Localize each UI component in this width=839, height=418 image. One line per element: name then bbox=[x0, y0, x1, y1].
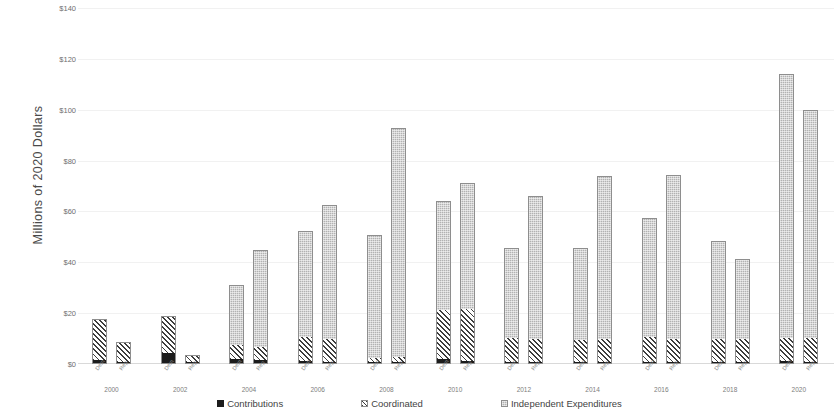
bar-segment-coordinated bbox=[299, 337, 312, 361]
bar-2002-dem[interactable] bbox=[161, 316, 176, 364]
bar-segment-coordinated bbox=[461, 309, 474, 361]
bar-segment-coordinated bbox=[230, 345, 243, 359]
bar-segment-independent-expenditures bbox=[574, 249, 587, 339]
bar-2006-dem[interactable] bbox=[298, 231, 313, 365]
x-axis-year-label: 2002 bbox=[173, 386, 187, 393]
bar-segment-independent-expenditures bbox=[505, 249, 518, 338]
bar-group-2006: DemRep2006 bbox=[290, 8, 359, 364]
legend-label: Coordinated bbox=[371, 398, 423, 409]
bar-2020-dem[interactable] bbox=[779, 74, 794, 364]
bar-segment-independent-expenditures bbox=[368, 236, 381, 357]
independent-expenditures-swatch bbox=[501, 400, 508, 407]
bar-segment-coordinated bbox=[93, 320, 106, 360]
bar-segment-independent-expenditures bbox=[667, 176, 680, 339]
bar-group-2010: DemRep2010 bbox=[428, 8, 497, 364]
bar-chart: Millions of 2020 Dollars $0$20$40$60$80$… bbox=[0, 0, 839, 418]
legend-item-coordinated[interactable]: Coordinated bbox=[361, 398, 423, 409]
bar-segment-coordinated bbox=[323, 339, 336, 362]
bar-group-2018: DemRep2018 bbox=[703, 8, 772, 364]
bar-segment-coordinated bbox=[804, 338, 817, 362]
bar-2006-rep[interactable] bbox=[322, 205, 337, 364]
y-axis-tick-label: $0 bbox=[28, 360, 76, 369]
x-axis-year-label: 2014 bbox=[585, 386, 599, 393]
bar-segment-independent-expenditures bbox=[392, 129, 405, 357]
bar-2004-dem[interactable] bbox=[229, 285, 244, 364]
x-axis-year-label: 2010 bbox=[448, 386, 462, 393]
x-axis-year-label: 2012 bbox=[517, 386, 531, 393]
bar-segment-independent-expenditures bbox=[461, 184, 474, 308]
bar-2008-rep[interactable] bbox=[391, 128, 406, 364]
bar-segment-independent-expenditures bbox=[598, 177, 611, 339]
bar-segment-independent-expenditures bbox=[780, 75, 793, 338]
bar-segment-coordinated bbox=[162, 317, 175, 353]
bar-group-2008: DemRep2008 bbox=[359, 8, 428, 364]
bar-group-2016: DemRep2016 bbox=[634, 8, 703, 364]
contributions-swatch bbox=[217, 400, 224, 407]
bar-group-2012: DemRep2012 bbox=[496, 8, 565, 364]
bar-segment-independent-expenditures bbox=[736, 260, 749, 339]
y-axis-tick-label: $140 bbox=[28, 4, 76, 13]
bar-2012-dem[interactable] bbox=[504, 248, 519, 364]
bar-segment-independent-expenditures bbox=[323, 206, 336, 339]
bar-2010-rep[interactable] bbox=[460, 183, 475, 364]
bar-segment-coordinated bbox=[598, 339, 611, 362]
bar-group-2014: DemRep2014 bbox=[565, 8, 634, 364]
bar-group-2000: DemRep2000 bbox=[84, 8, 153, 364]
bar-group-2004: DemRep2004 bbox=[221, 8, 290, 364]
y-axis-tick-label: $40 bbox=[28, 258, 76, 267]
x-axis-year-label: 2016 bbox=[654, 386, 668, 393]
x-axis-year-label: 2008 bbox=[379, 386, 393, 393]
y-axis-tick-label: $80 bbox=[28, 156, 76, 165]
x-axis-year-label: 2006 bbox=[310, 386, 324, 393]
bar-segment-independent-expenditures bbox=[299, 232, 312, 337]
bar-2000-dem[interactable] bbox=[92, 319, 107, 364]
y-axis-tick-label: $100 bbox=[28, 105, 76, 114]
bar-2014-rep[interactable] bbox=[597, 176, 612, 364]
bar-group-2002: DemRep2002 bbox=[153, 8, 222, 364]
bar-segment-coordinated bbox=[254, 347, 267, 360]
bar-2004-rep[interactable] bbox=[253, 250, 268, 364]
bar-2010-dem[interactable] bbox=[436, 201, 451, 364]
bar-segment-coordinated bbox=[529, 339, 542, 362]
x-axis-year-label: 2004 bbox=[242, 386, 256, 393]
bar-segment-independent-expenditures bbox=[804, 111, 817, 339]
bar-segment-independent-expenditures bbox=[254, 251, 267, 347]
bar-2016-dem[interactable] bbox=[642, 218, 657, 364]
x-axis-year-label: 2018 bbox=[723, 386, 737, 393]
legend-label: Independent Expenditures bbox=[511, 398, 622, 409]
legend-item-independent-expenditures[interactable]: Independent Expenditures bbox=[501, 398, 622, 409]
bar-segment-independent-expenditures bbox=[230, 286, 243, 345]
bar-2018-dem[interactable] bbox=[711, 241, 726, 364]
bar-segment-independent-expenditures bbox=[529, 197, 542, 339]
chart-legend: ContributionsCoordinatedIndependent Expe… bbox=[0, 398, 839, 409]
bar-2014-dem[interactable] bbox=[573, 248, 588, 364]
bar-segment-independent-expenditures bbox=[437, 202, 450, 310]
bar-2012-rep[interactable] bbox=[528, 196, 543, 364]
y-axis-tick-label: $20 bbox=[28, 309, 76, 318]
x-axis-year-label: 2000 bbox=[104, 386, 118, 393]
bar-segment-coordinated bbox=[437, 310, 450, 359]
bar-group-2020: DemRep2020 bbox=[771, 8, 839, 364]
legend-label: Contributions bbox=[227, 398, 283, 409]
bar-2020-rep[interactable] bbox=[803, 110, 818, 364]
legend-item-contributions[interactable]: Contributions bbox=[217, 398, 283, 409]
coordinated-swatch bbox=[361, 400, 368, 407]
bar-2018-rep[interactable] bbox=[735, 259, 750, 364]
bar-2008-dem[interactable] bbox=[367, 235, 382, 364]
bar-2016-rep[interactable] bbox=[666, 175, 681, 364]
bar-segment-independent-expenditures bbox=[712, 242, 725, 339]
plot-area: DemRep2000DemRep2002DemRep2004DemRep2006… bbox=[78, 8, 834, 364]
y-axis-tick-labels: $0$20$40$60$80$100$120$140 bbox=[24, 0, 76, 418]
y-axis-tick-label: $120 bbox=[28, 54, 76, 63]
y-axis-tick-label: $60 bbox=[28, 207, 76, 216]
x-axis-year-label: 2020 bbox=[792, 386, 806, 393]
bar-segment-independent-expenditures bbox=[643, 219, 656, 337]
